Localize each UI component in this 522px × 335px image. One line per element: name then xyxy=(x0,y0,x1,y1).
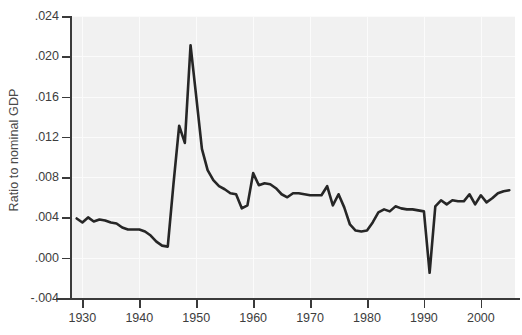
y-tick-label: .000 xyxy=(1,251,59,265)
chart-container: Ratio to nominal GDP .024.020.016.012.00… xyxy=(0,0,522,335)
x-tick-label: 1970 xyxy=(280,311,340,325)
y-tick-mark xyxy=(62,258,71,260)
x-tick-label: 1990 xyxy=(394,311,454,325)
y-tick-label: .008 xyxy=(1,170,59,184)
y-tick-mark xyxy=(62,177,71,179)
x-tick-label: 1940 xyxy=(109,311,169,325)
y-tick-label: .004 xyxy=(1,210,59,224)
y-tick-label: .012 xyxy=(1,130,59,144)
y-tick-mark xyxy=(62,56,71,58)
x-tick-mark xyxy=(310,299,312,308)
y-tick-label: .020 xyxy=(1,49,59,63)
x-tick-mark xyxy=(367,299,369,308)
x-tick-mark xyxy=(424,299,426,308)
x-tick-label: 1980 xyxy=(337,311,397,325)
x-tick-label: 1950 xyxy=(166,311,226,325)
x-tick-mark xyxy=(481,299,483,308)
x-tick-label: 1930 xyxy=(52,311,112,325)
y-axis-line xyxy=(70,16,72,299)
y-tick-mark xyxy=(62,97,71,99)
y-tick-label: -.004 xyxy=(1,291,59,305)
y-tick-mark xyxy=(62,137,71,139)
x-tick-mark xyxy=(82,299,84,308)
y-axis-title-text: Ratio to nominal GDP xyxy=(7,89,21,212)
x-tick-mark xyxy=(139,299,141,308)
plot-area xyxy=(71,16,515,298)
x-tick-mark xyxy=(253,299,255,308)
x-axis-line xyxy=(56,298,520,300)
y-tick-mark xyxy=(62,298,71,300)
x-tick-label: 2000 xyxy=(451,311,511,325)
y-tick-mark xyxy=(62,16,71,18)
x-tick-label: 1960 xyxy=(223,311,283,325)
x-tick-mark xyxy=(196,299,198,308)
series-line-chart xyxy=(71,16,515,298)
data-series-line xyxy=(77,45,510,273)
y-tick-mark xyxy=(62,217,71,219)
y-tick-label: .016 xyxy=(1,90,59,104)
y-tick-label: .024 xyxy=(1,9,59,23)
